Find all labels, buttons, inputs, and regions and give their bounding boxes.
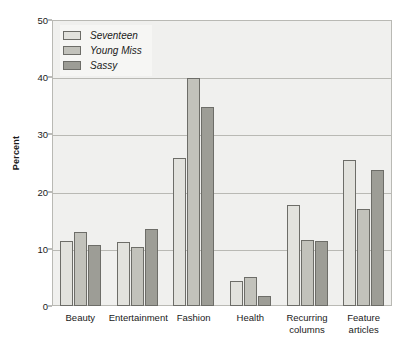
bar-group <box>287 20 328 306</box>
x-tick-label: Feature articles <box>335 312 392 336</box>
y-tick-label-40: 40 <box>18 72 48 83</box>
bar <box>244 277 257 306</box>
y-tick-label-30: 30 <box>18 129 48 140</box>
bar <box>145 229 158 306</box>
x-tick-label: Entertainment <box>109 312 166 324</box>
bar <box>357 209 370 306</box>
legend-item: Seventeen <box>63 28 142 43</box>
bar-group <box>173 20 214 306</box>
x-tick-label: Fashion <box>165 312 222 324</box>
y-tick-label-50: 50 <box>18 15 48 26</box>
bar <box>201 107 214 306</box>
legend-item: Sassy <box>63 58 142 73</box>
bar <box>315 241 328 306</box>
bar <box>74 232 87 306</box>
x-tick-label: Recurring columns <box>279 312 336 336</box>
bar <box>371 170 384 306</box>
bar-group <box>343 20 384 306</box>
legend-swatch-icon <box>63 46 81 55</box>
bar <box>301 240 314 306</box>
bar-chart: Percent 01020304050 BeautyEntertainmentF… <box>0 0 407 358</box>
legend-swatch-icon <box>63 61 81 70</box>
bar <box>343 160 356 306</box>
legend-item: Young Miss <box>63 43 142 58</box>
legend-label: Sassy <box>90 60 117 71</box>
y-axis-title: Percent <box>11 113 21 193</box>
bar <box>230 281 243 306</box>
y-tick-label-0: 0 <box>18 301 48 312</box>
bar <box>60 241 73 306</box>
bar <box>131 247 144 306</box>
y-tick-label-10: 10 <box>18 243 48 254</box>
legend-swatch-icon <box>63 31 81 40</box>
x-tick-label: Health <box>222 312 279 324</box>
legend-label: Young Miss <box>90 45 142 56</box>
bar <box>258 296 271 306</box>
bar <box>88 245 101 306</box>
x-tick-label: Beauty <box>52 312 109 324</box>
legend: SeventeenYoung MissSassy <box>60 25 152 76</box>
bar <box>117 242 130 306</box>
bar <box>173 158 186 306</box>
bar <box>187 78 200 306</box>
bar <box>287 205 300 306</box>
legend-label: Seventeen <box>90 30 138 41</box>
bar-group <box>230 20 271 306</box>
y-tick-label-20: 20 <box>18 186 48 197</box>
